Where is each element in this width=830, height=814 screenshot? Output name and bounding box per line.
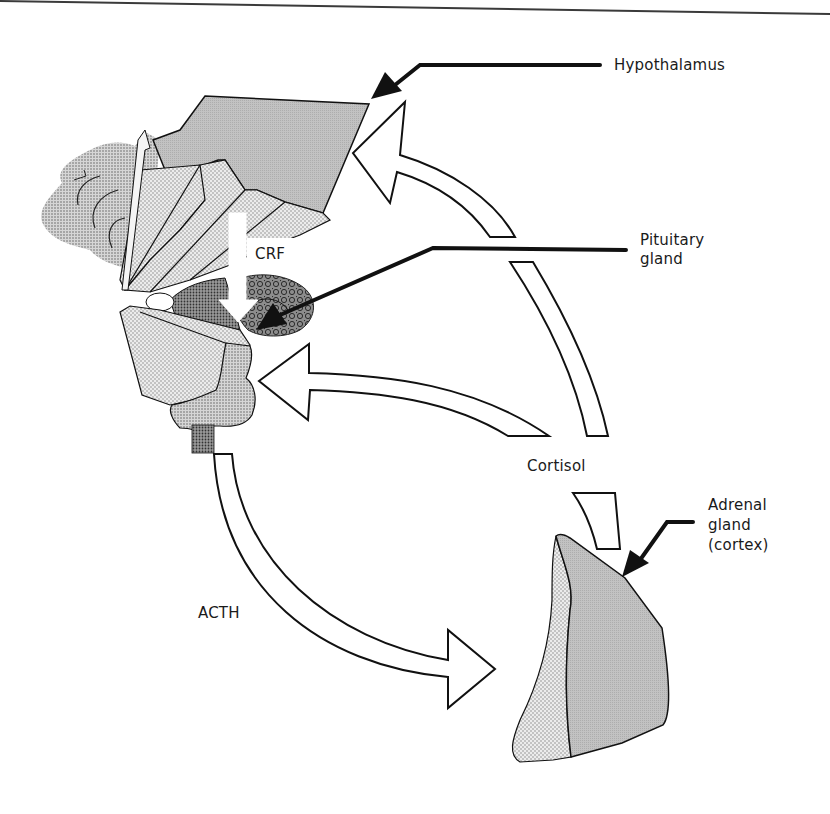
hypothalamus-label: Hypothalamus [614,56,725,75]
cortisol-segment-adrenal [573,493,620,549]
hpa-axis-diagram: Hypothalamus Pituitary gland CRF Cortiso… [0,0,830,814]
brain-illustration [41,96,369,453]
acth-arrow [214,454,495,708]
spinal-cord-stub [192,425,214,453]
acth-label: ACTH [198,604,240,623]
adrenal-cortex-shape [556,535,669,757]
cortisol-feedback-arc-segment [510,262,608,436]
pituitary-gland-label: Pituitary gland [640,231,704,269]
cortisol-feedback-arrow-hypothalamus [353,102,515,237]
hypothalamus-pointer [371,65,600,99]
adrenal-gland-illustration [512,535,668,762]
crf-label: CRF [255,245,285,264]
adrenal-medulla-shape [512,536,571,762]
cortisol-feedback-arrow-pituitary [259,344,549,436]
top-border-line [0,1,830,14]
adrenal-pointer [622,522,693,577]
diagram-canvas [0,0,830,814]
adrenal-gland-label: Adrenal gland (cortex) [708,495,769,555]
cortisol-label: Cortisol [527,457,586,476]
